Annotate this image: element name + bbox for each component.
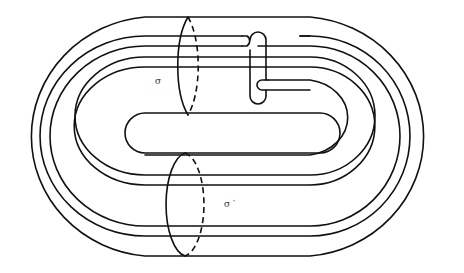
sigma-prime-disk-front xyxy=(166,153,185,256)
inner-loop xyxy=(125,113,340,153)
sigma-disk-back xyxy=(188,17,198,115)
sigma-prime-disk-back xyxy=(185,153,204,256)
sigma-disk-front xyxy=(178,17,188,115)
sigma-prime-label: σ ′ xyxy=(224,199,235,209)
strand-4 xyxy=(74,67,375,185)
sigma-label: σ xyxy=(155,76,161,86)
clasp-loop xyxy=(250,32,266,104)
knot-diagram: σ σ ′ xyxy=(0,0,464,273)
diagram-canvas: σ σ ′ xyxy=(0,0,464,273)
strand-5 xyxy=(145,80,348,155)
clasp-left-hook xyxy=(242,36,250,46)
clasp-right-hook xyxy=(257,80,310,90)
